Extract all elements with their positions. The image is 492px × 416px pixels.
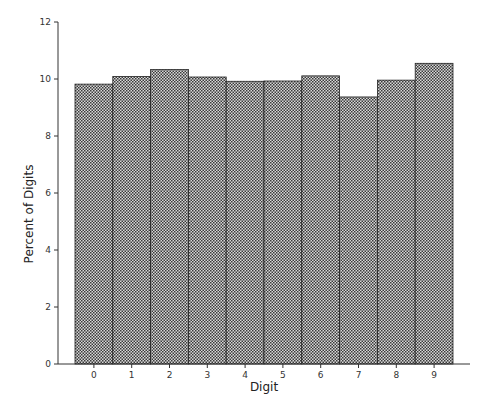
bar-digit-5 xyxy=(264,81,302,364)
bars-group xyxy=(75,63,453,364)
bar-digit-1 xyxy=(113,76,151,364)
bar-digit-6 xyxy=(302,76,340,364)
y-tick-label: 0 xyxy=(45,359,51,369)
bar-digit-9 xyxy=(415,63,453,364)
y-tick-label: 12 xyxy=(40,17,51,27)
x-tick-label: 3 xyxy=(204,370,210,380)
x-tick-label: 8 xyxy=(393,370,399,380)
bar-digit-8 xyxy=(377,80,415,364)
x-tick-label: 2 xyxy=(167,370,173,380)
bar-digit-7 xyxy=(340,97,378,364)
bar-digit-3 xyxy=(188,77,226,364)
x-tick-label: 7 xyxy=(356,370,362,380)
bar-digit-0 xyxy=(75,84,113,364)
bar-digit-2 xyxy=(151,70,189,364)
y-axis: 024681012 xyxy=(40,17,58,369)
x-tick-label: 1 xyxy=(129,370,135,380)
x-tick-label: 4 xyxy=(242,370,248,380)
x-tick-label: 0 xyxy=(91,370,97,380)
bar-chart: 024681012 0123456789 Percent of Digits D… xyxy=(0,0,492,416)
y-tick-label: 6 xyxy=(45,188,51,198)
x-axis-title: Digit xyxy=(250,380,279,394)
x-axis: 0123456789 xyxy=(58,364,470,380)
y-tick-label: 10 xyxy=(40,74,52,84)
bar-digit-4 xyxy=(226,81,264,364)
x-tick-label: 9 xyxy=(431,370,437,380)
y-tick-label: 2 xyxy=(45,302,51,312)
x-tick-label: 6 xyxy=(318,370,324,380)
y-axis-title: Percent of Digits xyxy=(22,165,36,264)
x-tick-label: 5 xyxy=(280,370,286,380)
y-tick-label: 8 xyxy=(45,131,51,141)
y-tick-label: 4 xyxy=(45,245,51,255)
